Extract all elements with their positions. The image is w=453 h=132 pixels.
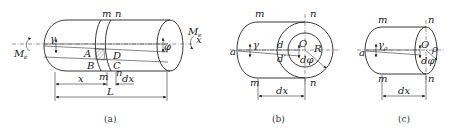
label-n-bottom-c: n <box>428 73 434 84</box>
torque-left-arrow <box>26 38 31 51</box>
label-gamma-sub-c: ρ <box>383 44 388 52</box>
label-Me-left-sub: e <box>24 53 28 60</box>
section-m-curve <box>95 20 101 71</box>
label-dim-dx-b: dx <box>276 85 288 96</box>
label-d-prime: d′ <box>277 53 286 64</box>
panel-b: m n a γ d d′ O R dφ m n dx (b) <box>230 8 340 124</box>
caption-b: (b) <box>272 114 285 124</box>
label-m-top-c: m <box>378 14 387 25</box>
label-dim-dx-c: dx <box>398 85 410 96</box>
label-dim-L: L <box>106 86 114 97</box>
label-d: d <box>277 39 283 50</box>
label-n-top-c: n <box>428 14 434 25</box>
label-dim-dx: dx <box>122 73 134 84</box>
label-a-c: a <box>359 47 365 58</box>
label-n-top-b: n <box>310 8 316 19</box>
label-gamma: γ <box>50 33 56 44</box>
label-B: B <box>86 60 94 71</box>
generator-line-bottom <box>44 57 168 62</box>
hatched-element <box>95 49 105 60</box>
caption-a: (a) <box>104 114 116 124</box>
label-n-bottom-b: n <box>310 77 316 88</box>
label-A: A <box>83 48 91 59</box>
label-R: R <box>313 43 322 54</box>
section-n-curve <box>105 20 111 71</box>
label-dphi-b: dφ <box>300 54 313 65</box>
cylinder-c-left-cap <box>365 27 382 74</box>
label-O-c: O <box>421 39 429 50</box>
label-m-top: m <box>102 8 111 19</box>
torque-right-arrow <box>190 36 194 49</box>
label-axis-x: x <box>196 34 202 45</box>
label-dim-x: x <box>78 73 84 84</box>
label-O-b: O <box>299 38 307 49</box>
panel-c: m n a γ ρ O ρ dφ m n dx (c) <box>357 14 445 124</box>
cylinder-left-cap <box>44 20 67 71</box>
caption-c: (c) <box>398 114 410 124</box>
label-m-bottom-c: m <box>378 73 387 84</box>
label-m-top-b: m <box>255 8 264 19</box>
panel-a: m n γ M e M e x φ A D B C m n x dx L (a) <box>12 8 202 124</box>
label-gamma-b: γ <box>253 39 259 50</box>
label-n-top: n <box>115 8 121 19</box>
label-phi: φ <box>164 41 171 52</box>
torsion-diagram: m n γ M e M e x φ A D B C m n x dx L (a) <box>0 0 453 132</box>
label-dphi-c: dφ <box>421 55 434 66</box>
label-a-b: a <box>230 46 236 57</box>
label-rho: ρ <box>431 43 438 54</box>
